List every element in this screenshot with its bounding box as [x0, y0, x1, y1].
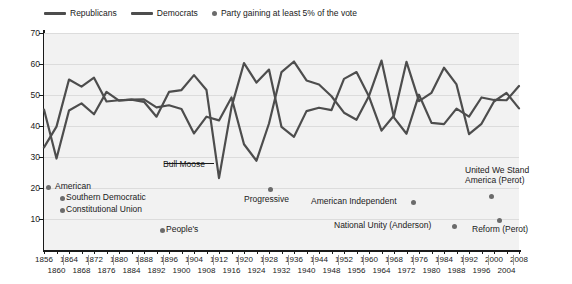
legend-dot-icon [212, 11, 217, 16]
x-axis-tick-label: 1900 [173, 266, 191, 275]
third-party-marker-dot [452, 224, 457, 229]
legend-line-icon [131, 12, 153, 15]
y-axis-tick-label: 50 [18, 90, 40, 100]
x-axis-tick [369, 250, 370, 254]
x-axis-tick-label: 1964 [373, 266, 391, 275]
x-axis-tick-label: 1972 [398, 266, 416, 275]
y-axis-tick [39, 188, 44, 189]
x-axis-tick [282, 250, 283, 254]
third-party-marker-dot [160, 228, 165, 233]
x-axis-tick [194, 250, 195, 254]
x-axis-label-separator [238, 255, 239, 265]
y-axis-tick-label: 40 [18, 121, 40, 131]
x-axis-label-separator [388, 255, 389, 265]
x-axis-label-separator [438, 255, 439, 265]
legend-item-republicans: Republicans [44, 8, 117, 18]
annotation-label: Progressive [244, 194, 289, 204]
x-axis-tick-label: 1916 [223, 266, 241, 275]
y-axis-tick-label: 70 [18, 28, 40, 38]
y-axis-tick [39, 95, 44, 96]
third-party-marker-dot [411, 200, 416, 205]
y-axis-tick [39, 33, 44, 34]
series-lines [44, 33, 519, 250]
annotation-label: American Independent [311, 196, 397, 206]
y-axis-tick-label: 20 [18, 183, 40, 193]
x-axis-tick [182, 250, 183, 254]
x-axis-tick-label: 2004 [498, 266, 516, 275]
x-axis-label-separator [288, 255, 289, 265]
annotation-label-line: America (Perot) [465, 175, 529, 185]
x-axis-tick-label: 1868 [73, 266, 91, 275]
chart-root: Republicans Democrats Party gaining at l… [0, 0, 572, 284]
x-axis-label-separator [513, 255, 514, 265]
x-axis-tick [357, 250, 358, 254]
x-axis-tick-label: 1956 [348, 266, 366, 275]
x-axis-tick-label: 1856 [35, 255, 53, 264]
annotation-label: Southern Democratic [66, 192, 146, 202]
third-party-marker-dot [46, 185, 51, 190]
x-axis-tick [107, 250, 108, 254]
third-party-marker-dot [60, 196, 65, 201]
x-axis-tick-label: 1876 [98, 266, 116, 275]
x-axis-tick [244, 250, 245, 254]
x-axis-tick [444, 250, 445, 254]
third-party-marker-dot [60, 208, 65, 213]
x-axis-tick [382, 250, 383, 254]
x-axis-tick [157, 250, 158, 254]
x-axis-tick [132, 250, 133, 254]
x-axis-label-separator [113, 255, 114, 265]
x-axis-label-separator [163, 255, 164, 265]
annotation-label: Constitutional Union [66, 204, 142, 214]
annotation-label: People's [166, 224, 198, 234]
x-axis-tick [469, 250, 470, 254]
x-axis-tick [307, 250, 308, 254]
x-axis-tick [119, 250, 120, 254]
x-axis-tick [144, 250, 145, 254]
x-axis-labels: 1856186018641868187218761880188418881892… [44, 250, 519, 284]
x-axis-tick [482, 250, 483, 254]
x-axis-label-separator [138, 255, 139, 265]
annotation-label-line: United We Stand [465, 165, 529, 175]
annotation-label: National Unity (Anderson) [334, 220, 431, 230]
x-axis-tick [319, 250, 320, 254]
plot-area [44, 33, 519, 250]
x-axis-label-separator [313, 255, 314, 265]
x-axis-tick [94, 250, 95, 254]
x-axis-tick [419, 250, 420, 254]
x-axis-label-separator [88, 255, 89, 265]
x-axis-label-separator [338, 255, 339, 265]
x-axis-tick-label: 1948 [323, 266, 341, 275]
x-axis-tick [69, 250, 70, 254]
x-axis-tick [57, 250, 58, 254]
x-axis-tick-label: 1932 [273, 266, 291, 275]
x-axis-tick-label: 1884 [123, 266, 141, 275]
x-axis-tick [44, 250, 45, 254]
x-axis-tick [219, 250, 220, 254]
y-axis-tick [39, 219, 44, 220]
x-axis-tick-label: 1924 [248, 266, 266, 275]
x-axis-tick-label: 1908 [198, 266, 216, 275]
x-axis-tick-label: 1996 [473, 266, 491, 275]
x-axis-label-separator [263, 255, 264, 265]
x-axis-tick [82, 250, 83, 254]
y-axis-tick-label: 10 [18, 214, 40, 224]
x-axis-tick [232, 250, 233, 254]
x-axis-label-separator [213, 255, 214, 265]
x-axis-tick [332, 250, 333, 254]
x-axis-tick [432, 250, 433, 254]
x-axis-label-separator [63, 255, 64, 265]
y-axis-tick-label: 30 [18, 152, 40, 162]
annotation-leader-line [164, 163, 214, 164]
chart-legend: Republicans Democrats Party gaining at l… [44, 8, 357, 18]
x-axis-tick [407, 250, 408, 254]
x-axis-tick [394, 250, 395, 254]
series-line-democrats [44, 61, 519, 161]
x-axis-tick-label: 1892 [148, 266, 166, 275]
x-axis-tick-label: 1860 [48, 266, 66, 275]
x-axis-tick [169, 250, 170, 254]
x-axis-label-separator [363, 255, 364, 265]
legend-label: Party gaining at least 5% of the vote [221, 8, 357, 18]
third-party-marker-dot [489, 194, 494, 199]
x-axis-tick-label: 1980 [423, 266, 441, 275]
x-axis-tick-label: 1940 [298, 266, 316, 275]
